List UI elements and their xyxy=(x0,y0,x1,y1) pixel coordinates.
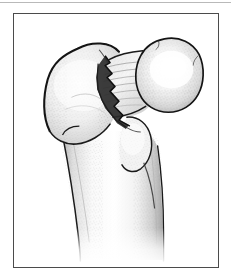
shaft-fade-overlay xyxy=(14,227,218,267)
femur-illustration xyxy=(14,14,218,267)
top-divider-rule xyxy=(0,2,231,3)
figure-frame-border xyxy=(13,13,219,268)
figure-root: Line-and-stipple anatomical drawing of t… xyxy=(0,0,231,280)
